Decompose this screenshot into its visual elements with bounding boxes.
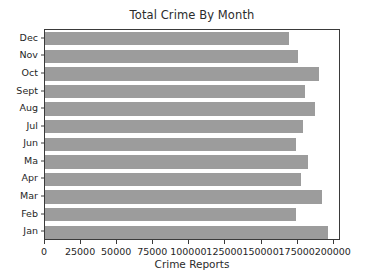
x-tick-label-100000: 100000 [170,246,206,257]
x-tick-mark [116,240,117,244]
bar-row [45,85,339,98]
bar-oct[interactable] [45,67,319,80]
bar-row [45,67,339,80]
bar-row [45,102,339,115]
x-tick-label-150000: 150000 [242,246,278,257]
x-tick-mark [261,240,262,244]
bar-aug[interactable] [45,102,315,115]
y-tick-label-jan: Jan [23,226,38,236]
bar-row [45,173,339,186]
x-tick-mark [333,240,334,244]
x-tick-mark [80,240,81,244]
x-tick-mark [188,240,189,244]
y-tick-label-jul: Jul [27,121,38,131]
bar-row [45,50,339,63]
y-tick-label-nov: Nov [19,50,38,60]
y-tick-label-ma: Ma [24,156,38,166]
bar-mar[interactable] [45,190,322,203]
bar-row [45,190,339,203]
x-tick-label-200000: 200000 [315,246,351,257]
x-tick-label-50000: 50000 [101,246,131,257]
y-axis: DecNovOctSeptAugJulJunMaAprMarFebJan [0,29,44,240]
y-tick-label-jun: Jun [23,138,38,148]
chart-title: Total Crime By Month [44,8,340,22]
y-tick-label-apr: Apr [22,173,38,183]
y-tick-label-feb: Feb [21,209,38,219]
bar-row [45,208,339,221]
y-tick-label-sept: Sept [16,86,38,96]
bar-dec[interactable] [45,32,289,45]
bar-feb[interactable] [45,208,296,221]
bar-jan[interactable] [45,226,328,239]
x-tick-mark [44,240,45,244]
x-tick-label-75000: 75000 [137,246,167,257]
bar-apr[interactable] [45,173,301,186]
bar-nov[interactable] [45,50,298,63]
x-axis-label: Crime Reports [44,258,340,271]
x-tick-mark [152,240,153,244]
bar-jul[interactable] [45,120,303,133]
bars-layer [45,30,339,239]
bar-row [45,155,339,168]
bar-jun[interactable] [45,138,296,151]
x-tick-mark [297,240,298,244]
x-tick-label-175000: 175000 [279,246,315,257]
x-tick-label-0: 0 [41,246,47,257]
bar-sept[interactable] [45,85,305,98]
y-tick-label-mar: Mar [20,191,38,201]
bar-ma[interactable] [45,155,308,168]
chart-figure: Total Crime By Month DecNovOctSeptAugJul… [0,0,373,280]
x-tick-mark [224,240,225,244]
y-tick-label-oct: Oct [22,68,38,78]
y-tick-label-dec: Dec [20,33,38,43]
bar-row [45,120,339,133]
plot-area [44,29,340,240]
bar-row [45,32,339,45]
x-tick-label-125000: 125000 [206,246,242,257]
y-tick-label-aug: Aug [19,103,38,113]
bar-row [45,138,339,151]
x-tick-label-25000: 25000 [65,246,95,257]
bar-row [45,226,339,239]
